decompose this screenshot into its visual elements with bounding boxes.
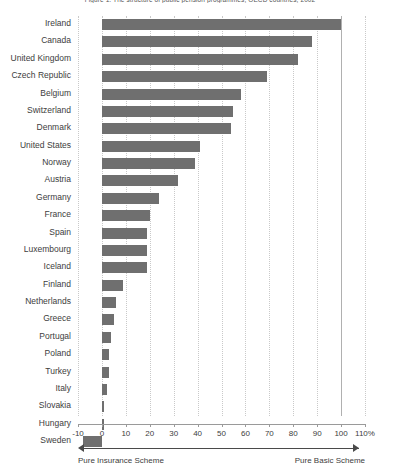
category-label: Italy [55, 382, 71, 395]
tick-mark [365, 424, 366, 427]
category-label: Denmark [37, 121, 71, 134]
tick-mark [102, 424, 103, 427]
bar [102, 262, 147, 273]
bar [102, 210, 150, 221]
bar-row: United Kingdom [78, 51, 365, 68]
category-label: Slovakia [39, 399, 71, 412]
tick-mark [150, 424, 151, 427]
category-label: Poland [45, 347, 71, 360]
category-label: Greece [43, 312, 71, 325]
bar-row: Finland [78, 277, 365, 294]
tick-mark [222, 424, 223, 427]
scheme-spectrum-line [84, 448, 359, 449]
bar [102, 54, 298, 65]
category-label: Belgium [40, 87, 71, 100]
bar [102, 332, 112, 343]
category-label: Portugal [39, 330, 71, 343]
bar [102, 245, 147, 256]
category-label: France [45, 208, 71, 221]
tick-label: 70 [265, 429, 274, 438]
bar [102, 141, 200, 152]
tick-mark [174, 424, 175, 427]
bar-row: Czech Republic [78, 68, 365, 85]
bar [102, 71, 267, 82]
category-label: Spain [49, 226, 71, 239]
tick-label: -10 [72, 429, 84, 438]
bar-row: Norway [78, 155, 365, 172]
bar [102, 349, 109, 360]
bar-row: Spain [78, 225, 365, 242]
tick-label: 20 [145, 429, 154, 438]
plot-area: IrelandCanadaUnited KingdomCzech Republi… [78, 16, 365, 416]
tick-label: 40 [193, 429, 202, 438]
bar [102, 89, 241, 100]
tick-label: 0 [100, 429, 104, 438]
tick-mark [126, 424, 127, 427]
chart-title: Figure 1. The structure of public pensio… [0, 0, 400, 3]
bar-row: United States [78, 138, 365, 155]
category-label: Netherlands [25, 295, 71, 308]
bar-row: Luxembourg [78, 242, 365, 259]
bar-row: Poland [78, 346, 365, 363]
annotation-pure-insurance: Pure Insurance Scheme [78, 456, 164, 465]
tick-label: 10 [121, 429, 130, 438]
category-label: Turkey [45, 365, 71, 378]
tick-mark [341, 424, 342, 427]
bar [102, 175, 179, 186]
bar-row: Iceland [78, 259, 365, 276]
tick-label: 90 [313, 429, 322, 438]
bar-rows: IrelandCanadaUnited KingdomCzech Republi… [78, 16, 365, 416]
tick-mark [269, 424, 270, 427]
arrow-right-icon [353, 444, 359, 452]
tick-label: 30 [169, 429, 178, 438]
bar-row: Ireland [78, 16, 365, 33]
tick-label: 80 [289, 429, 298, 438]
tick-mark [198, 424, 199, 427]
bar [102, 297, 116, 308]
category-label: Ireland [45, 17, 71, 30]
bar [102, 228, 147, 239]
bar-row: Belgium [78, 86, 365, 103]
arrow-left-icon [78, 444, 84, 452]
category-label: Finland [43, 278, 71, 291]
tick-mark [293, 424, 294, 427]
bar-row: France [78, 207, 365, 224]
category-label: Hungary [39, 417, 71, 430]
bar-row: Denmark [78, 120, 365, 137]
bar-chart: Figure 1. The structure of public pensio… [0, 0, 400, 473]
bar [102, 367, 109, 378]
bar-row: Slovakia [78, 398, 365, 415]
category-label: Canada [41, 34, 71, 47]
bar [102, 193, 159, 204]
bar [102, 36, 312, 47]
bar-row: Canada [78, 33, 365, 50]
tick-mark [317, 424, 318, 427]
category-label: Czech Republic [11, 69, 71, 82]
tick-label: 110% [355, 429, 375, 438]
bar-row: Portugal [78, 329, 365, 346]
bar-row: Germany [78, 190, 365, 207]
bar-row: Greece [78, 311, 365, 328]
tick-label: 50 [217, 429, 226, 438]
bar [102, 19, 341, 30]
category-label: Sweden [40, 434, 71, 447]
category-label: Luxembourg [24, 243, 71, 256]
category-label: Austria [45, 173, 71, 186]
category-label: Germany [36, 191, 71, 204]
tick-label: 100 [334, 429, 347, 438]
tick-mark [245, 424, 246, 427]
bar [102, 384, 107, 395]
bar [102, 106, 234, 117]
bar [102, 314, 114, 325]
bar-row: Netherlands [78, 294, 365, 311]
bar [102, 158, 195, 169]
bar-row: Austria [78, 172, 365, 189]
bar [102, 123, 231, 134]
category-label: United States [20, 139, 71, 152]
tick-mark [78, 424, 79, 427]
tick-label: 60 [241, 429, 250, 438]
bar [102, 401, 104, 412]
category-label: Norway [42, 156, 71, 169]
bar-row: Italy [78, 381, 365, 398]
category-label: Iceland [44, 260, 71, 273]
